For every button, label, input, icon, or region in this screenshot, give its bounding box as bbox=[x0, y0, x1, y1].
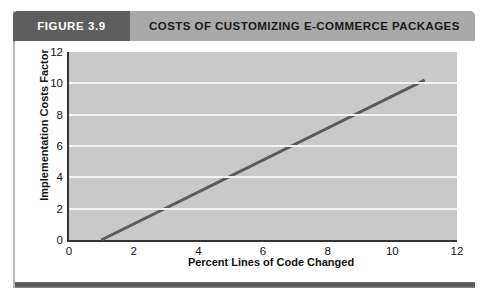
y-tick-label-4: 4 bbox=[57, 171, 63, 183]
x-axis-title: Percent Lines of Code Changed bbox=[67, 256, 475, 268]
figure-container: FIGURE 3.9 COSTS OF CUSTOMIZING E-COMMER… bbox=[0, 0, 492, 306]
y-tick-label-6: 6 bbox=[57, 140, 63, 152]
gridline-y-8 bbox=[69, 114, 457, 116]
figure-title-label: COSTS OF CUSTOMIZING E-COMMERCE PACKAGES bbox=[149, 20, 460, 32]
gridline-y-6 bbox=[69, 145, 457, 147]
y-tick-label-8: 8 bbox=[57, 109, 63, 121]
gridline-y-12 bbox=[69, 51, 457, 53]
figure-number-badge: FIGURE 3.9 bbox=[13, 11, 130, 41]
y-tick-label-10: 10 bbox=[50, 77, 63, 89]
series-line-0 bbox=[101, 80, 424, 240]
plot-area: 024681012024681012 bbox=[67, 52, 457, 242]
gridline-y-2 bbox=[69, 208, 457, 210]
gridline-y-4 bbox=[69, 176, 457, 178]
y-axis-title: Implementation Costs Factor bbox=[38, 30, 50, 220]
y-tick-label-0: 0 bbox=[57, 234, 63, 246]
chart-body: Implementation Costs Factor 024681012024… bbox=[15, 41, 475, 274]
gridline-y-10 bbox=[69, 82, 457, 84]
figure-footer-rule bbox=[15, 282, 475, 288]
y-tick-label-2: 2 bbox=[57, 203, 63, 215]
figure-header: FIGURE 3.9 COSTS OF CUSTOMIZING E-COMMER… bbox=[13, 11, 475, 41]
figure-title: COSTS OF CUSTOMIZING E-COMMERCE PACKAGES bbox=[130, 11, 475, 41]
y-tick-label-12: 12 bbox=[50, 46, 63, 58]
